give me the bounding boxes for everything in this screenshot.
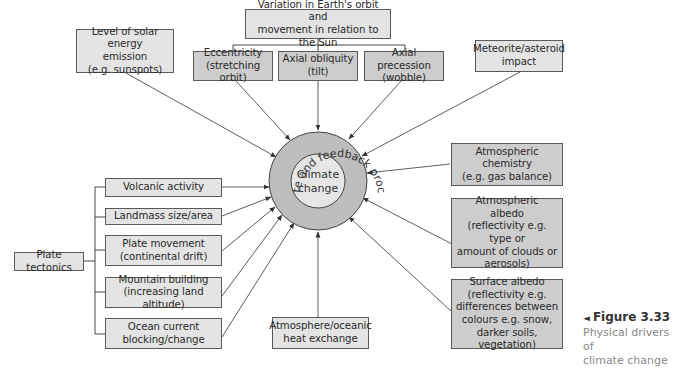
hub-label-line2: change: [298, 182, 339, 195]
figure-caption: ◄Figure 3.33 Physical drivers of climate…: [583, 310, 676, 368]
hub-label-line1: Climate: [297, 168, 340, 181]
surface-albedo-box: Surface albedo (reflectivity e.g. differ…: [451, 279, 563, 349]
figure-number: ◄Figure 3.33: [583, 310, 676, 326]
atmosphere-ocean-exchange-box: Atmosphere/oceanic heat exchange: [272, 317, 369, 349]
landmass-box: Landmass size/area: [105, 208, 222, 225]
atmospheric-albedo-box: Atmospheric albedo (reflectivity e.g. ty…: [451, 198, 563, 268]
axial-precession-box: Axial precession (wobble): [364, 51, 444, 81]
ocean-current-box: Ocean current blocking/change: [105, 318, 222, 349]
atmospheric-chemistry-box: Atmospheric chemistry (e.g. gas balance): [451, 143, 563, 186]
orbit-variation-box: Variation in Earth's orbit and movement …: [245, 9, 391, 39]
plate-movement-box: Plate movement (continental drift): [105, 235, 222, 266]
mountain-building-box: Mountain building (increasing land altit…: [105, 277, 222, 308]
eccentricity-box: Eccentricity (stretching orbit): [193, 51, 273, 81]
axial-obliquity-box: Axial obliquity (tilt): [278, 51, 358, 81]
meteorite-impact-box: Meteorite/asteroid impact: [475, 40, 563, 72]
solar-emission-box: Level of solar energy emission (e.g. sun…: [76, 29, 174, 73]
volcanic-activity-box: Volcanic activity: [105, 178, 222, 197]
left-triangle-icon: ◄: [583, 313, 590, 323]
plate-tectonics-box: Plate tectonics: [14, 252, 84, 271]
figure-description: Physical drivers of climate change: [583, 326, 676, 368]
